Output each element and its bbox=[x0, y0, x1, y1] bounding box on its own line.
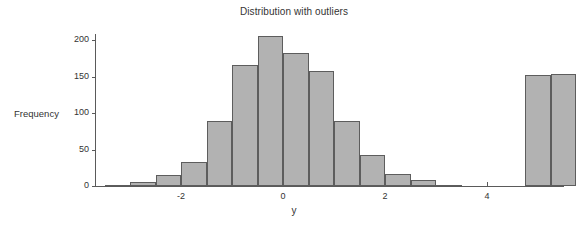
histogram-bars bbox=[0, 0, 588, 228]
histogram-bar bbox=[551, 74, 577, 186]
histogram-bar bbox=[207, 121, 233, 186]
x-axis-line bbox=[95, 186, 564, 187]
histogram-bar bbox=[283, 53, 309, 186]
y-axis-line bbox=[95, 34, 96, 186]
histogram-bar bbox=[525, 75, 551, 186]
histogram-bar bbox=[258, 36, 284, 186]
histogram-figure: Distribution with outliers Frequency y 0… bbox=[0, 0, 588, 228]
histogram-bar bbox=[309, 71, 335, 186]
histogram-bar bbox=[334, 121, 360, 186]
histogram-bar bbox=[156, 175, 182, 186]
histogram-bar bbox=[360, 155, 386, 186]
histogram-bar bbox=[232, 65, 258, 186]
histogram-bar bbox=[181, 162, 207, 186]
histogram-bar bbox=[385, 174, 411, 186]
